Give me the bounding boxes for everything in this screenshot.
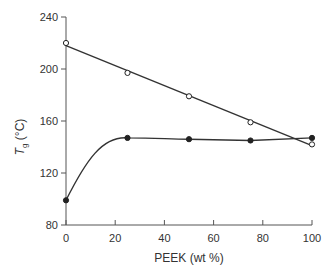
x-axis-label: PEEK (wt %) <box>154 251 223 265</box>
y-axis-label: Tg (°C) <box>13 119 29 156</box>
filled-circle-marker <box>63 198 68 203</box>
open-circle-marker <box>125 70 130 75</box>
y-tick-label: 200 <box>40 63 58 75</box>
axes: 80120160200240020406080100 <box>40 11 322 244</box>
filled-circle-marker <box>248 138 253 143</box>
y-tick-label: 240 <box>40 11 58 23</box>
y-tick-label: 80 <box>46 219 58 231</box>
x-tick-label: 60 <box>207 232 219 244</box>
chart: 80120160200240020406080100 PEEK (wt %) T… <box>0 0 334 274</box>
open-circle-marker <box>186 94 191 99</box>
open-circle-marker <box>248 120 253 125</box>
x-tick-label: 100 <box>303 232 321 244</box>
filled-circle-marker <box>186 137 191 142</box>
x-tick-label: 0 <box>63 232 69 244</box>
lower-curve <box>66 138 312 201</box>
open-circle-marker <box>63 40 68 45</box>
open-circle-marker <box>309 142 314 147</box>
plot-series <box>63 40 314 203</box>
y-tick-label: 120 <box>40 167 58 179</box>
y-tick-label: 160 <box>40 115 58 127</box>
x-tick-label: 40 <box>158 232 170 244</box>
filled-circle-marker <box>309 135 314 140</box>
filled-circle-marker <box>125 135 130 140</box>
x-tick-label: 20 <box>109 232 121 244</box>
x-tick-label: 80 <box>257 232 269 244</box>
